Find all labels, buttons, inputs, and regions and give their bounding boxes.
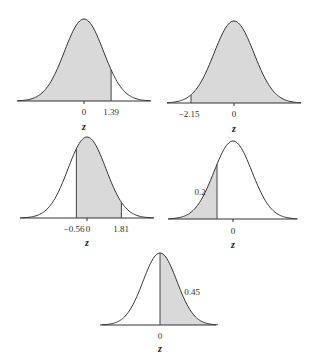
axis-label-z: z [230, 239, 235, 250]
panel-1-left-of-1.39: 0 1.39 z [17, 19, 151, 132]
panel-2-right-of-neg-2.15: −2.15 0 z [167, 21, 301, 134]
tick-label-0: 0 [232, 109, 237, 119]
tick-label-1.81: 1.81 [113, 224, 129, 234]
panel-3-between-neg-0.56-and-1.81: −0.56 0 1.81 z [20, 137, 154, 248]
tick-label-0: 0 [231, 226, 236, 236]
shaded-area [76, 137, 121, 218]
tick-label-neg-0.56: −0.56 [64, 224, 85, 234]
area-label-0.2: 0.2 [194, 187, 205, 197]
tick-label-neg-2.15: −2.15 [179, 109, 200, 119]
axis-label-z: z [81, 121, 86, 132]
axis-label-z: z [84, 237, 89, 248]
area-label-0.45: 0.45 [184, 287, 200, 297]
shaded-area [18, 19, 111, 101]
shaded-area [191, 21, 301, 103]
tick-label-0: 0 [82, 107, 87, 117]
axis-label-z: z [231, 123, 236, 134]
panel-5-right-of-0-0.45: 0.45 0 z [100, 253, 218, 354]
normal-curve [168, 141, 297, 219]
panel-4-left-tail-0.2: 0.2 0 z [168, 141, 298, 250]
tick-label-0: 0 [158, 331, 163, 341]
tick-label-1.39: 1.39 [103, 107, 119, 117]
axis-label-z: z [157, 343, 162, 354]
tick-label-0: 0 [86, 224, 91, 234]
normal-curves-figure: 0 1.39 z −2.15 0 z −0.56 0 1.81 z 0.2 0 … [0, 0, 314, 362]
